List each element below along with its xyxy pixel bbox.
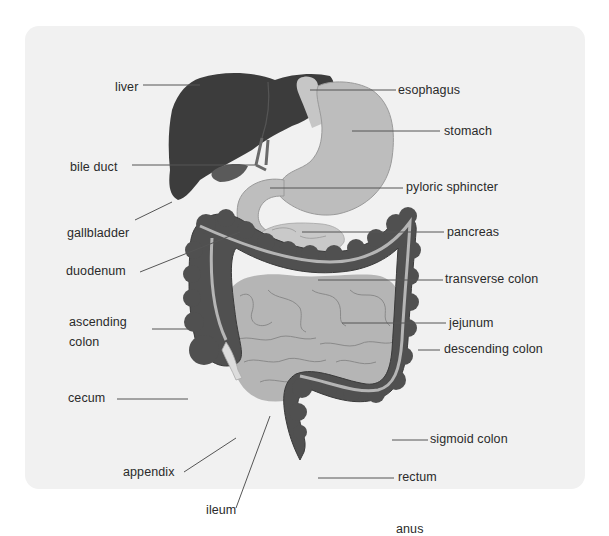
label-pyloric-sphincter: pyloric sphincter xyxy=(406,180,498,194)
label-descending-colon: descending colon xyxy=(444,342,543,356)
label-anus: anus xyxy=(396,522,424,536)
label-stomach: stomach xyxy=(444,124,492,138)
label-duodenum: duodenum xyxy=(66,264,126,278)
label-pancreas: pancreas xyxy=(447,225,499,239)
label-ileum: ileum xyxy=(206,503,236,517)
label-jejunum: jejunum xyxy=(449,316,493,330)
label-liver: liver xyxy=(115,80,138,94)
label-cecum: cecum xyxy=(68,391,105,405)
label-transverse-colon: transverse colon xyxy=(445,272,538,286)
label-appendix: appendix xyxy=(123,465,175,479)
label-ascending-colon: ascending xyxy=(69,315,127,329)
label-sigmoid-colon: sigmoid colon xyxy=(430,432,508,446)
label-rectum: rectum xyxy=(398,470,437,484)
label-gallbladder: gallbladder xyxy=(67,226,129,240)
label-ascending-colon-line2: colon xyxy=(69,335,99,349)
label-bile-duct: bile duct xyxy=(70,160,117,174)
label-esophagus: esophagus xyxy=(398,83,460,97)
